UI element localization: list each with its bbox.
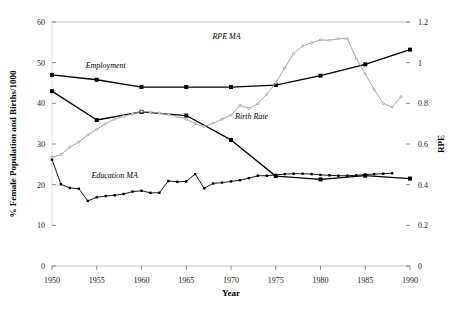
x-tick-label: 1955: [89, 276, 105, 285]
data-point: [229, 138, 233, 142]
data-point: [78, 141, 80, 143]
data-point: [203, 187, 205, 189]
data-point: [275, 174, 277, 176]
data-point: [212, 122, 214, 124]
y-tick-label: 10: [37, 221, 45, 230]
data-point: [355, 58, 357, 60]
chart-container: 010203040506000.20.40.60.811.21950195519…: [0, 0, 458, 311]
data-point: [266, 175, 268, 177]
x-tick-label: 1960: [134, 276, 150, 285]
data-point: [310, 42, 312, 44]
x-tick-label: 1965: [178, 276, 194, 285]
data-point: [408, 177, 412, 181]
y-tick-label: 60: [37, 18, 45, 27]
series-line-education-ma: [52, 159, 392, 200]
series-label-birth-rate: Birth Rate: [235, 112, 269, 121]
y2-tick-label: 0.4: [418, 181, 428, 190]
data-point: [114, 118, 116, 120]
data-point: [194, 173, 196, 175]
data-point: [149, 192, 151, 194]
data-point: [87, 200, 89, 202]
data-point: [95, 118, 99, 122]
data-point: [373, 88, 375, 90]
data-point: [301, 172, 303, 174]
series-label-rpe-ma: RPE MA: [211, 32, 240, 41]
line-chart: 010203040506000.20.40.60.811.21950195519…: [0, 0, 458, 311]
y-tick-label: 50: [37, 59, 45, 68]
data-point: [140, 85, 144, 89]
data-point: [328, 39, 330, 41]
data-point: [184, 85, 188, 89]
x-tick-label: 1970: [223, 276, 239, 285]
data-point: [60, 183, 62, 185]
data-point: [122, 193, 124, 195]
data-point: [185, 118, 187, 120]
data-point: [310, 173, 312, 175]
data-point: [167, 113, 169, 115]
data-point: [239, 179, 241, 181]
data-point: [302, 45, 304, 47]
data-point: [275, 82, 277, 84]
data-point: [391, 172, 393, 174]
x-tick-label: 1985: [357, 276, 373, 285]
data-point: [221, 181, 223, 183]
data-point: [319, 177, 323, 181]
x-tick-label: 1990: [402, 276, 418, 285]
data-point: [346, 175, 348, 177]
series-label-education-ma: Education MA: [90, 171, 138, 180]
data-point: [96, 196, 98, 198]
data-point: [51, 156, 53, 158]
data-point: [319, 174, 321, 176]
data-point: [266, 93, 268, 95]
data-point: [382, 102, 384, 104]
data-point: [50, 73, 54, 77]
data-point: [158, 112, 160, 114]
data-point: [69, 146, 71, 148]
data-point: [293, 52, 295, 54]
y2-tick-label: 0.2: [418, 221, 428, 230]
data-point: [284, 173, 286, 175]
data-point: [363, 62, 367, 66]
data-point: [185, 180, 187, 182]
x-tick-label: 1980: [313, 276, 329, 285]
data-point: [167, 180, 169, 182]
data-point: [176, 115, 178, 117]
y2-axis-title: RPE: [436, 135, 446, 153]
data-point: [257, 175, 259, 177]
data-point: [95, 78, 99, 82]
data-point: [60, 153, 62, 155]
data-point: [123, 115, 125, 117]
data-point: [328, 174, 330, 176]
y2-tick-label: 0.8: [418, 99, 428, 108]
data-point: [408, 48, 412, 52]
data-point: [248, 107, 250, 109]
y-tick-label: 0: [41, 262, 45, 271]
y2-tick-label: 1: [418, 59, 422, 68]
data-point: [105, 123, 107, 125]
data-point: [337, 175, 339, 177]
data-point: [319, 39, 321, 41]
data-point: [319, 74, 323, 78]
data-point: [113, 194, 115, 196]
data-point: [382, 172, 384, 174]
data-point: [284, 67, 286, 69]
data-point: [203, 126, 205, 128]
data-point: [346, 38, 348, 40]
data-point: [131, 190, 133, 192]
data-point: [176, 181, 178, 183]
data-point: [239, 104, 241, 106]
data-point: [229, 85, 233, 89]
data-point: [230, 180, 232, 182]
x-tick-label: 1950: [44, 276, 60, 285]
data-point: [96, 128, 98, 130]
data-point: [391, 106, 393, 108]
data-point: [69, 187, 71, 189]
data-point: [78, 188, 80, 190]
data-point: [140, 190, 142, 192]
series-line-birth-rate: [52, 91, 410, 179]
y2-tick-label: 1.2: [418, 18, 428, 27]
data-point: [50, 89, 54, 93]
data-point: [149, 111, 151, 113]
y2-tick-label: 0: [418, 262, 422, 271]
data-point: [364, 173, 366, 175]
